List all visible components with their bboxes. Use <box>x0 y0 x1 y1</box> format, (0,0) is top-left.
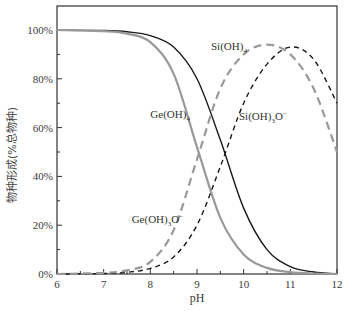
y-tick-label: 100% <box>27 24 53 36</box>
y-axis-title: 物种形成(%总物种) <box>5 107 19 203</box>
x-tick-label: 6 <box>54 278 60 290</box>
series-label: Ge(OH)4 <box>150 108 190 123</box>
y-tick-label: 20% <box>33 219 53 231</box>
data-curves <box>57 30 337 274</box>
x-tick-label: 8 <box>148 278 154 290</box>
y-tick-labels: 0%20%40%60%80%100% <box>27 24 53 280</box>
speciation-chart: 6789101112 0%20%40%60%80%100% Si(OH)4Ge(… <box>0 0 350 311</box>
y-tick-label: 40% <box>33 170 53 182</box>
axis-ticks <box>57 30 337 274</box>
x-tick-labels: 6789101112 <box>54 278 342 290</box>
series-label: Si(OH)3O− <box>239 110 287 125</box>
x-tick-label: 10 <box>238 278 250 290</box>
series-label: Si(OH)4 <box>211 40 247 55</box>
y-tick-label: 0% <box>38 268 53 280</box>
x-tick-label: 11 <box>285 278 296 290</box>
x-tick-label: 7 <box>101 278 107 290</box>
plot-frame <box>57 6 337 274</box>
x-tick-label: 9 <box>194 278 200 290</box>
series-label: Ge(OH)3O− <box>132 213 184 228</box>
series-ge-oh-4-line <box>57 30 337 274</box>
y-tick-label: 80% <box>33 73 53 85</box>
y-tick-label: 60% <box>33 122 53 134</box>
series-labels: Si(OH)4Ge(OH)4Si(OH)3O−Ge(OH)3O− <box>132 40 287 228</box>
x-tick-label: 12 <box>332 278 343 290</box>
x-axis-title: pH <box>190 291 205 305</box>
series-si-oh-4-line <box>57 30 337 274</box>
